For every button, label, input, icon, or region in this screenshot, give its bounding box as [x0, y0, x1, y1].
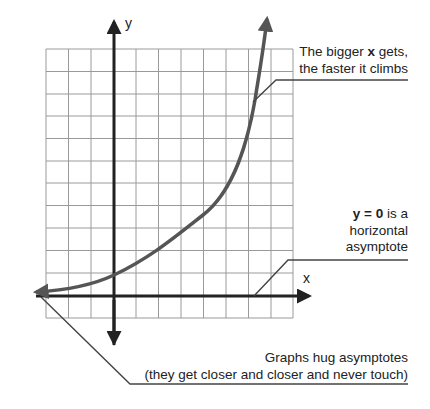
- callout-asymptote: y = 0 is a horizontal asymptote: [208, 206, 408, 256]
- leader-asymptote: [254, 260, 408, 296]
- callout-hug-line1: Graphs hug asymptotes: [88, 350, 408, 367]
- callout-hug-line2: (they get closer and closer and never to…: [88, 367, 408, 384]
- callout-asymptote-line3: asymptote: [208, 239, 408, 256]
- callout-growth-line2: the faster it climbs: [208, 61, 408, 78]
- callout-growth-line1: The bigger x gets,: [208, 44, 408, 61]
- callout-hug: Graphs hug asymptotes (they get closer a…: [88, 350, 408, 383]
- callout-asymptote-line2: horizontal: [208, 223, 408, 240]
- leader-growth: [253, 80, 408, 102]
- exponential-graph-diagram: y x The bigger x gets, the faster it cli…: [0, 0, 430, 409]
- callout-growth: The bigger x gets, the faster it climbs: [208, 44, 408, 77]
- x-axis-label: x: [303, 270, 310, 287]
- callout-asymptote-line1: y = 0 is a: [208, 206, 408, 223]
- y-axis-label: y: [125, 15, 132, 32]
